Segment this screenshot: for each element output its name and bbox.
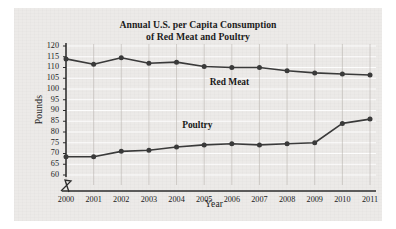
data-point	[202, 64, 207, 69]
x-tick-label: 2011	[355, 196, 385, 204]
series-line-poultry	[66, 119, 370, 157]
data-point	[202, 142, 207, 147]
data-point	[91, 62, 96, 67]
chart-canvas	[14, 8, 382, 221]
y-tick-label: 110	[33, 63, 59, 71]
series-label-poultry: Poultry	[182, 120, 212, 130]
y-tick-label: 100	[33, 85, 59, 93]
y-tick-label: 75	[33, 139, 59, 147]
y-tick-label: 115	[33, 53, 59, 61]
data-point	[91, 154, 96, 159]
gridlines-group	[66, 44, 376, 185]
y-tick-label: 85	[33, 117, 59, 125]
x-tick-label: 2001	[79, 196, 109, 204]
y-tick-label: 120	[33, 42, 59, 50]
data-point	[229, 141, 234, 146]
data-point	[174, 60, 179, 65]
x-tick-label: 2010	[327, 196, 357, 204]
x-tick-label: 2007	[244, 196, 274, 204]
chart-figure: Annual U.S. per Capita Consumption of Re…	[0, 0, 396, 229]
data-point	[340, 121, 345, 126]
y-tick-label: 70	[33, 149, 59, 157]
x-tick-label: 2000	[51, 196, 81, 204]
y-tick-label: 80	[33, 128, 59, 136]
data-point	[285, 141, 290, 146]
x-tick-label: 2005	[189, 196, 219, 204]
y-tick-label: 105	[33, 74, 59, 82]
data-point	[257, 65, 262, 70]
y-tick-label: 90	[33, 106, 59, 114]
data-point	[340, 71, 345, 76]
data-point	[146, 148, 151, 153]
data-point	[257, 142, 262, 147]
axes-group	[61, 43, 376, 192]
data-point	[119, 149, 124, 154]
data-point	[368, 73, 373, 78]
x-tick-label: 2006	[217, 196, 247, 204]
x-tick-label: 2003	[134, 196, 164, 204]
data-point	[229, 65, 234, 70]
series-label-red-meat: Red Meat	[210, 77, 249, 87]
x-tick-label: 2004	[162, 196, 192, 204]
data-point	[146, 61, 151, 66]
data-point	[285, 68, 290, 73]
x-tick-label: 2002	[106, 196, 136, 204]
series-group	[64, 55, 373, 159]
data-point	[368, 117, 373, 122]
data-point	[64, 154, 69, 159]
y-tick-label: 95	[33, 96, 59, 104]
data-point	[119, 55, 124, 60]
y-tick-label: 60	[33, 171, 59, 179]
data-point	[174, 145, 179, 150]
y-tick-label: 65	[33, 160, 59, 168]
series-line-red-meat	[66, 58, 370, 75]
x-tick-label: 2008	[272, 196, 302, 204]
y-axis-break-icon	[61, 180, 71, 192]
x-tick-label: 2009	[300, 196, 330, 204]
data-point	[312, 140, 317, 145]
chart-plate: Annual U.S. per Capita Consumption of Re…	[14, 8, 382, 221]
data-point	[64, 56, 69, 61]
data-point	[312, 70, 317, 75]
